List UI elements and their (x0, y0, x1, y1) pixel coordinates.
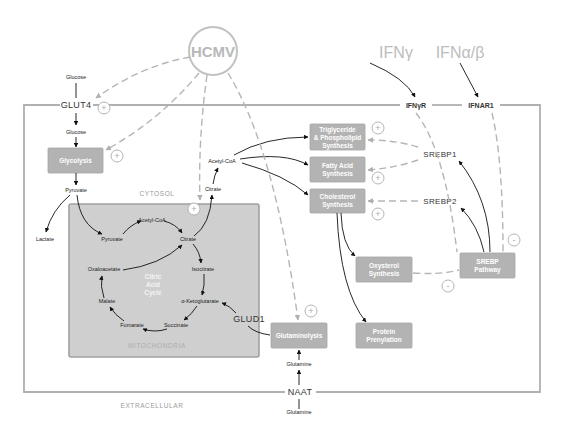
ifn-gamma-label: IFNγ (379, 44, 413, 61)
fumarate-label: Fumarate (120, 322, 144, 328)
cytosol-label: CYTOSOL (139, 190, 174, 197)
citrate-cytosol-label: Citrate (205, 186, 221, 192)
plus-icon: + (375, 173, 380, 183)
ifn-alpha-beta-label: IFNα/β (436, 44, 485, 61)
fatty-acid-label-2: Synthesis (322, 170, 353, 178)
hcmv-node: HCMV (189, 27, 237, 75)
glycolysis-box: Glycolysis (48, 148, 103, 173)
protein-prenylation-box: Protein Prenylation (356, 323, 412, 348)
isocitrate-label: Isocitrate (192, 266, 214, 272)
triglyceride-label-2: & Phospholipid (314, 134, 362, 142)
mitochondria-compartment (69, 204, 259, 357)
tca-title-line3: Cycle (144, 289, 162, 297)
srebp1-to-triglyceride-dashed (368, 140, 418, 147)
oxaloacetate-label: Oxaloacetate (88, 266, 120, 272)
oxysterol-label-1: Oxysterol (369, 262, 399, 270)
srebp-pathway-to-srebp2-arrow (461, 208, 484, 252)
acetylcoa-to-triglyceride-arrow (234, 137, 308, 155)
srebp-pathway-label-1: SREBP (476, 258, 499, 265)
malate-label: Malate (99, 298, 116, 304)
glycolysis-label: Glycolysis (59, 157, 92, 165)
acetyl-coa-cytosol-label: Acetyl-CoA (208, 158, 236, 164)
ifngamma-to-receptor-arrow (370, 63, 415, 97)
triglyceride-synthesis-box: Triglyceride & Phospholipid Synthesis (310, 124, 365, 150)
plus-icon: + (191, 204, 196, 214)
ifnar1-inhibits-srebp-dashed (492, 113, 503, 252)
srebp-pathway-label-2: Pathway (474, 266, 501, 274)
fatty-acid-label-1: Fatty Acid (322, 162, 353, 170)
cholesterol-to-oxysterol-arrow (341, 213, 355, 256)
tca-title-line1: Citric (145, 273, 162, 280)
glucose-cytosol-label: Glucose (66, 129, 86, 135)
cholesterol-label-1: Cholesterol (320, 193, 356, 200)
plus-icon: + (375, 123, 380, 133)
metabolic-diagram: CYTOSOL MITOCHONDRIA EXTRACELLULAR HCMV … (0, 0, 564, 428)
srebp1-to-fattyacid-dashed (368, 160, 418, 170)
glutamine-cytosol-label: Glutamine (286, 361, 311, 367)
tca-title-line2: Acid (146, 281, 160, 288)
naat-label: NAAT (288, 387, 313, 397)
plus-sign-cholesterol: + (372, 208, 384, 220)
succinate-label: Succinate (164, 322, 188, 328)
ifnab-to-receptor-arrow (460, 63, 478, 97)
plus-sign-glycolysis: + (111, 150, 123, 162)
oxysterol-synthesis-box: Oxysterol Synthesis (356, 257, 412, 282)
citrate-to-acetylcoa-arrow (213, 168, 218, 184)
glutaminolysis-box: Glutaminolysis (271, 323, 327, 348)
glut4-label: GLUT4 (61, 100, 92, 110)
cholesterol-synthesis-box: Cholesterol Synthesis (310, 189, 365, 213)
mitochondria-label: MITOCHONDRIA (128, 342, 186, 349)
minus-sign-ifn: - (508, 234, 520, 246)
minus-icon: - (513, 235, 516, 245)
minus-icon: - (447, 281, 450, 291)
ifnar1-label: IFNAR1 (468, 102, 493, 109)
srebp2-label: SREBP2 (423, 197, 457, 206)
pyruvate-cytosol-label: Pyruvate (65, 187, 87, 193)
glucose-extracellular-label: Glucose (66, 74, 86, 80)
srebp-pathway-box: SREBP Pathway (460, 253, 515, 278)
citrate-mito-label: Citrate (180, 236, 196, 242)
plus-sign-glutaminolysis: + (305, 305, 317, 317)
glutamine-extracellular-label: Glutamine (286, 409, 311, 415)
ifngr-inhibits-srebp-dashed (416, 113, 457, 252)
pyruvate-to-lactate-arrow (46, 195, 70, 232)
plus-sign-triglyceride: + (372, 122, 384, 134)
minus-sign-oxysterol: - (442, 280, 454, 292)
a-ketoglutarate-label: α-Ketoglutarate (181, 298, 219, 304)
plus-icon: + (308, 306, 313, 316)
hcmv-label: HCMV (191, 43, 235, 60)
srebp-pathway-to-srebp1-arrow (459, 161, 490, 252)
triglyceride-label-1: Triglyceride (319, 126, 356, 134)
lactate-label: Lactate (36, 236, 54, 242)
glutaminolysis-label: Glutaminolysis (276, 332, 323, 340)
srebp1-label: SREBP1 (423, 150, 457, 159)
hcmv-to-glycolysis-dashed (106, 73, 199, 150)
plus-icon: + (114, 151, 119, 161)
acetylcoa-to-fattyacid-arrow (240, 157, 308, 165)
pyruvate-mito-label: Pyruvate (101, 236, 123, 242)
hcmv-to-glut4-dashed (96, 57, 190, 98)
plus-sign-glut4: + (98, 102, 110, 114)
plus-icon: + (101, 103, 106, 113)
prenylation-label-1: Protein (373, 328, 395, 335)
glud1-label: GLUD1 (233, 314, 265, 324)
triglyceride-label-3: Synthesis (322, 142, 353, 150)
ifngr-label: IFNγR (406, 102, 426, 110)
extracellular-label: EXTRACELLULAR (120, 402, 183, 409)
plus-sign-fattyacid: + (372, 172, 384, 184)
hcmv-to-citrate-dashed (200, 75, 207, 200)
oxysterol-inhibits-srebp-dashed (413, 270, 459, 274)
fatty-acid-synthesis-box: Fatty Acid Synthesis (310, 157, 365, 182)
plus-sign-citrate: + (188, 203, 200, 215)
oxysterol-label-2: Synthesis (369, 270, 400, 278)
acetyl-coa-mito-label: Acetyl-CoA (138, 217, 166, 223)
plus-icon: + (375, 209, 380, 219)
acetylcoa-to-cholesterol-arrow (242, 163, 308, 195)
cholesterol-label-2: Synthesis (322, 201, 353, 209)
prenylation-label-2: Prenylation (366, 336, 401, 344)
